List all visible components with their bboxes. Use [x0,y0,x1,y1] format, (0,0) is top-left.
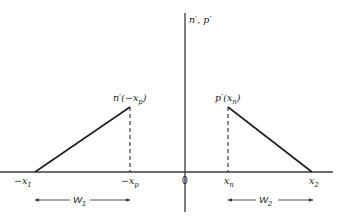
neg-xp-label: −xp [121,175,139,189]
p-prime-peak-label: p′(xn) [215,92,241,106]
p-prime-profile-line [228,107,312,172]
n-prime-profile-line [35,107,130,172]
pn-junction-diagram: n′, p′ n′(−xp) p′(xn) −x1 −xp 0 xn x2 W1… [0,0,344,220]
y-axis-label: n′, p′ [189,14,212,25]
w2-label: W2 [259,194,272,207]
origin-label: 0 [182,175,188,186]
x2-label: x2 [309,175,319,189]
neg-x1-label: −x1 [14,175,32,189]
w1-label: W1 [73,194,86,207]
xn-label: xn [224,175,234,189]
n-prime-peak-label: n′(−xp) [113,92,147,106]
